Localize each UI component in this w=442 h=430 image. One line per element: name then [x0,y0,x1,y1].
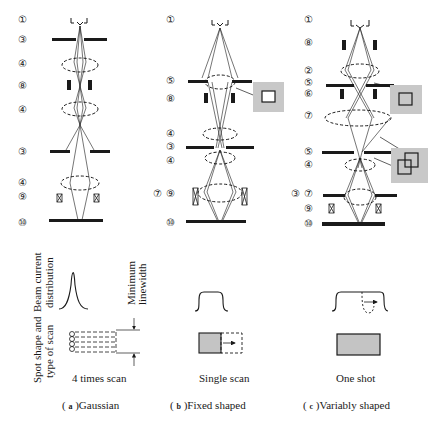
label-target: ⑩ [18,217,27,228]
blanker-icon [342,40,346,50]
blanker-icon [88,80,92,90]
aperture-plate-icon [186,146,214,149]
target-wafer-icon [49,219,103,222]
label-gun: ① [166,14,175,25]
caption-title-a: Gaussian [79,399,120,411]
lens-icon [62,58,98,72]
label-condenser-lens: ② [304,65,313,76]
label-second-aperture: ⑤ [304,146,313,157]
label-lens: ④ [304,159,313,170]
label-lens: ④ [18,58,27,69]
blanker-icon [204,93,208,103]
aperture-plate-icon [323,194,345,197]
panel-c-beam-profile [332,292,388,313]
aperture-plate-icon [90,150,110,153]
column-b-fixed-shaped: ① ⑤ ⑧ ④ ③ ④ ⑦ ⑨ ⑩ [153,14,284,228]
label-aperture: ③ [291,188,300,199]
label-lens: ④ [18,177,27,188]
target-wafer-icon [186,220,246,223]
lens-icon [61,176,99,190]
blanker-icon [231,93,235,103]
electron-gun-icon [351,20,369,28]
first-aperture-plate-icon [326,84,354,87]
aperture-plate-icon [375,194,397,197]
aperture-plate-icon [226,146,254,149]
label-first-aperture: ⑤ [304,77,313,88]
blanker-icon [67,80,71,90]
aperture-plate-icon [84,38,107,41]
label-shaping-deflector: ⑥ [304,88,313,99]
label-blanker: ⑧ [304,37,313,48]
label-blanker: ⑧ [166,93,175,104]
label-lens: ⑦ [304,110,313,121]
electron-gun-icon [71,18,87,25]
label-aperture: ③ [18,146,27,157]
scan-label-a: 4 times scan [72,372,127,384]
caption-a-text: ( a )Gaussian [62,399,120,412]
second-aperture-plate-icon [322,151,354,154]
label-deflector: ⑨ [304,203,313,214]
flat-top-profile-curve [195,292,228,311]
scan-label-b: Single scan [199,372,250,384]
lens-icon [205,75,235,89]
caption-c: ( c )Variably shaped [303,399,390,412]
lens-icon [205,152,235,164]
blanker-icon [373,40,377,50]
beam-rays [345,28,390,222]
label-projection-lens: ⑦ [304,188,313,199]
panel-a-spot-scan: Minimum linewidth 4 times scan [70,261,149,384]
flat-top-profile-curve [332,292,388,311]
label-target: ⑩ [166,217,175,228]
shaping-deflector-icon [340,89,344,99]
beam-rays [202,28,238,222]
scan-label-c: One shot [336,372,375,384]
variable-edge-profile [362,292,374,313]
target-wafer-icon [322,222,385,226]
lens-icon [62,102,98,116]
label-aperture: ③ [166,141,175,152]
label-aperture: ③ [18,34,27,45]
row-label-beam-current-2: distribution [43,257,55,308]
label-gun: ① [304,14,313,25]
electron-gun-icon [212,20,228,26]
label-projection-lens: ⑦ [153,188,162,199]
label-target: ⑩ [304,218,313,229]
gaussian-profile-curve [59,273,88,309]
caption-a: ( a )Gaussian [62,399,120,412]
label-lens: ④ [18,104,27,115]
square-aperture-icon [262,91,275,102]
panel-c-spot-scan: One shot [336,334,380,384]
label-blanker: ⑧ [18,80,27,91]
aperture-plate-icon [50,150,70,153]
column-a-gaussian: ① ③ ④ ⑧ ④ ③ ④ ⑨ ⑩ [18,14,110,228]
shaping-deflector-icon [373,89,377,99]
annotation-linewidth: linewidth [136,263,148,305]
rectangular-spot [337,334,380,355]
row-label-beam-current-1: Beam current [31,252,43,312]
column-c-variably-shaped: ① ⑧ ② ⑤ ⑥ ⑦ ⑤ ④ ③ ⑦ ⑨ ⑩ [291,14,428,229]
beam-rays [66,26,94,220]
aperture-plate-icon [52,38,76,41]
caption-c-text: ( c )Variably shaped [303,399,390,412]
caption-title-c: Variably shaped [319,399,390,411]
label-deflector: ⑨ [18,191,27,202]
row-labels: Beam current distribution Spot shape and… [31,252,55,383]
aperture-inset-1 [390,85,422,114]
label-lens: ④ [166,128,175,139]
square-spot [199,333,221,353]
lens-icon [325,110,391,126]
panel-a-beam-profile [59,273,88,309]
caption-title-b: Fixed shaped [187,399,246,411]
deflector-icon [57,194,99,202]
panel-b-beam-profile [195,292,228,311]
label-shaping-aperture: ⑤ [166,75,175,86]
row-label-spot-shape-2: type of scan [43,324,55,378]
panel-b-spot-scan: Single scan [199,333,250,384]
electron-beam-column-diagram: ① ③ ④ ⑧ ④ ③ ④ ⑨ ⑩ [0,0,442,430]
row-label-spot-shape-1: Spot shape and [31,316,43,383]
label-gun: ① [18,14,27,25]
label-deflector: ⑨ [166,188,175,199]
label-lens: ④ [166,155,175,166]
caption-b: ( b )Fixed shaped [170,399,246,412]
caption-b-text: ( b )Fixed shaped [170,399,246,412]
